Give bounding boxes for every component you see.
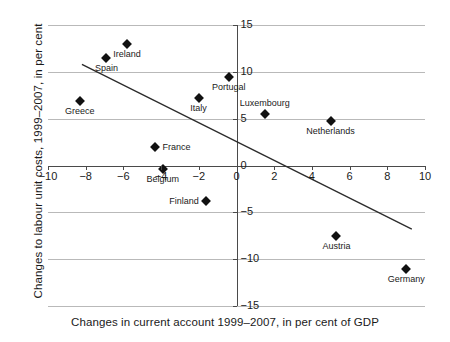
point-label-finland: Finland bbox=[169, 196, 199, 206]
x-tickmark-2 bbox=[274, 166, 275, 170]
plot-area: GreeceSpainIrelandItalyPortugalLuxembour… bbox=[48, 25, 425, 306]
point-label-portugal: Portugal bbox=[212, 82, 246, 92]
x-tickmark--6 bbox=[123, 166, 124, 170]
point-label-netherlands: Netherlands bbox=[306, 126, 355, 136]
chart-container: Changes to labour unit costs, 1999–2007,… bbox=[0, 0, 450, 342]
y-tick-10: 10 bbox=[241, 65, 271, 77]
gridline-y--15 bbox=[48, 306, 425, 307]
y-tickmark--5 bbox=[233, 212, 237, 213]
y-axis-title: Changes to labour unit costs, 1999–2007,… bbox=[32, 11, 44, 311]
x-tick-2: 2 bbox=[259, 170, 289, 182]
y-tick--15: −15 bbox=[241, 299, 271, 311]
x-tick--8: −8 bbox=[71, 170, 101, 182]
x-tick--6: −6 bbox=[108, 170, 138, 182]
y-tickmark-0 bbox=[233, 166, 237, 167]
x-tickmark--8 bbox=[86, 166, 87, 170]
x-tickmark--10 bbox=[48, 166, 49, 170]
point-label-france: France bbox=[162, 142, 190, 152]
x-tickmark--2 bbox=[199, 166, 200, 170]
point-label-luxembourg: Luxembourg bbox=[240, 98, 290, 108]
x-tick-10: 10 bbox=[410, 170, 440, 182]
point-label-austria: Austria bbox=[322, 241, 350, 251]
x-tick-4: 4 bbox=[297, 170, 327, 182]
x-tickmark-10 bbox=[425, 166, 426, 170]
x-tick--4: −4 bbox=[146, 170, 176, 182]
y-tickmark-10 bbox=[233, 72, 237, 73]
x-tickmark-8 bbox=[387, 166, 388, 170]
x-tick--10: −10 bbox=[33, 170, 63, 182]
x-axis-title: Changes in current account 1999–2007, in… bbox=[0, 316, 450, 328]
y-tick--10: −10 bbox=[241, 252, 271, 264]
y-tickmark-15 bbox=[233, 25, 237, 26]
point-label-germany: Germany bbox=[388, 274, 425, 284]
x-tick-0: 0 bbox=[222, 170, 252, 182]
point-label-spain: Spain bbox=[95, 63, 118, 73]
y-tickmark--10 bbox=[233, 259, 237, 260]
point-label-italy: Italy bbox=[190, 103, 207, 113]
x-tickmark-4 bbox=[312, 166, 313, 170]
point-label-ireland: Ireland bbox=[113, 49, 141, 59]
y-tickmark--15 bbox=[233, 306, 237, 307]
y-tick-15: 15 bbox=[241, 18, 271, 30]
x-tick-8: 8 bbox=[372, 170, 402, 182]
x-tickmark--4 bbox=[161, 166, 162, 170]
x-tickmark-6 bbox=[350, 166, 351, 170]
y-tick-5: 5 bbox=[241, 112, 271, 124]
point-label-greece: Greece bbox=[65, 106, 95, 116]
y-tick--5: −5 bbox=[241, 205, 271, 217]
x-tick-6: 6 bbox=[335, 170, 365, 182]
y-tickmark-5 bbox=[233, 119, 237, 120]
x-tick--2: −2 bbox=[184, 170, 214, 182]
